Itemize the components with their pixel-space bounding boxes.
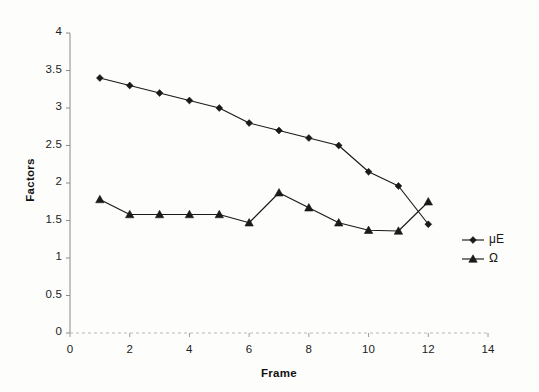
y-tick-label: 1 xyxy=(55,250,62,262)
x-tick-label: 4 xyxy=(169,343,209,355)
legend-entry-label-omega: Ω xyxy=(489,251,498,265)
x-tick-label: 10 xyxy=(349,343,389,355)
y-axis-title: Factors xyxy=(24,158,36,202)
y-tick-label: 3.5 xyxy=(45,63,62,75)
y-tick-label: 0.5 xyxy=(45,288,62,300)
x-tick-label: 0 xyxy=(50,343,90,355)
y-tick-label: 2 xyxy=(55,175,62,187)
y-tick-label: 3 xyxy=(55,100,62,112)
y-tick-label: 1.5 xyxy=(45,213,62,225)
y-tick-label: 0 xyxy=(55,325,62,337)
x-tick-label: 2 xyxy=(110,343,150,355)
y-tick-label: 4 xyxy=(55,25,62,37)
line-chart-figure: 00.511.522.533.54 02468101214 Factors Fr… xyxy=(0,0,539,392)
chart-plot-area xyxy=(0,0,539,392)
x-tick-label: 6 xyxy=(229,343,269,355)
x-tick-label: 12 xyxy=(408,343,448,355)
x-tick-label: 14 xyxy=(468,343,508,355)
legend-entry-label-microE: μE xyxy=(489,232,504,246)
data-series-layer xyxy=(96,75,433,235)
legend-markers xyxy=(462,237,484,263)
axis-lines xyxy=(66,33,488,337)
y-tick-label: 2.5 xyxy=(45,138,62,150)
x-axis-title: Frame xyxy=(239,367,319,379)
x-tick-label: 8 xyxy=(289,343,329,355)
